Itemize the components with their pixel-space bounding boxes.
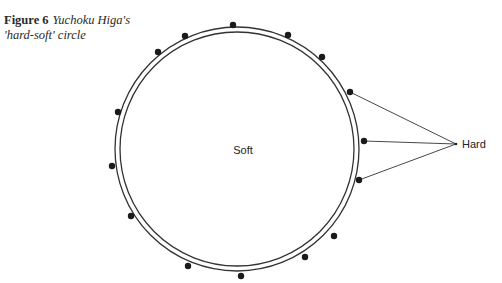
hard-connector-line xyxy=(359,144,456,180)
circle-dot xyxy=(302,254,308,260)
circle-dot xyxy=(185,263,191,269)
hard-connector-lines xyxy=(350,92,456,180)
soft-label: Soft xyxy=(233,144,253,156)
circle-dot xyxy=(331,233,337,239)
circle-dot xyxy=(115,109,121,115)
hard-label: Hard xyxy=(462,138,486,150)
hard-soft-circle-diagram: Soft Hard xyxy=(0,0,502,283)
circle-dot xyxy=(319,54,325,60)
hard-point-marker xyxy=(455,143,458,146)
circle-dot xyxy=(285,32,291,38)
circle-dot xyxy=(238,273,244,279)
hard-connector-line xyxy=(350,92,456,144)
circle-dot xyxy=(155,49,161,55)
circle-dot xyxy=(356,177,362,183)
hard-connector-line xyxy=(364,141,456,144)
circle-dot xyxy=(347,89,353,95)
circle-dot xyxy=(361,138,367,144)
circle-dot xyxy=(109,163,115,169)
circle-dot xyxy=(182,33,188,39)
circle-dot xyxy=(230,22,236,28)
circle-dot xyxy=(128,213,134,219)
